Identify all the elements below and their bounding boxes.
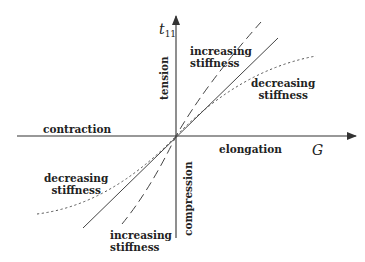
annotation-line: increasing	[110, 229, 172, 241]
upper-increasing-stiffness-label: increasing stiffness	[190, 45, 252, 69]
compression-label: compression	[182, 161, 194, 236]
lower-increasing-stiffness-label: increasing stiffness	[110, 229, 172, 253]
annotation-line: stiffness	[251, 89, 315, 101]
lower-decreasing-stiffness-label: decreasing stiffness	[44, 172, 108, 196]
stress-strain-diagram: t11 G tension compression contraction el…	[0, 0, 365, 262]
x-axis-label: G	[312, 142, 323, 158]
annotation-line: increasing	[190, 45, 252, 57]
contraction-label: contraction	[43, 123, 111, 135]
tension-label: tension	[158, 56, 170, 100]
elongation-label: elongation	[219, 143, 282, 155]
annotation-line: stiffness	[190, 57, 252, 69]
annotation-line: decreasing	[251, 77, 315, 89]
y-axis-label: t11	[159, 21, 176, 39]
upper-decreasing-stiffness-label: decreasing stiffness	[251, 77, 315, 101]
annotation-line: stiffness	[44, 184, 108, 196]
annotation-line: stiffness	[110, 241, 172, 253]
y-axis-subscript: 11	[165, 29, 176, 39]
annotation-line: decreasing	[44, 172, 108, 184]
